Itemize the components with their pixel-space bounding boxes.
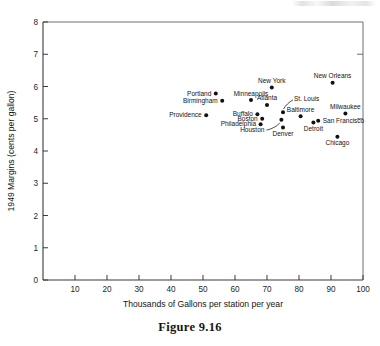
x-axis-ticks: 102030405060708090100 <box>70 275 370 294</box>
plot-frame <box>43 22 363 280</box>
data-point <box>220 99 224 103</box>
data-point-label: Denver <box>273 130 295 137</box>
y-tick-label: 6 <box>33 83 38 92</box>
y-tick-label: 4 <box>33 147 38 156</box>
data-point <box>299 114 303 118</box>
figure-caption: Figure 9.16 <box>0 320 380 335</box>
x-tick-label: 70 <box>262 285 272 294</box>
data-point <box>270 85 274 89</box>
y-tick-label: 0 <box>33 276 38 285</box>
data-point <box>311 121 315 125</box>
data-point <box>316 119 320 123</box>
data-point <box>249 98 253 102</box>
x-tick-label: 20 <box>102 285 112 294</box>
y-tick-label: 5 <box>33 115 38 124</box>
data-point-label: Milwaukee <box>330 103 361 110</box>
data-point <box>281 110 285 114</box>
data-point-label: Atlanta <box>257 94 278 101</box>
x-tick-label: 60 <box>230 285 240 294</box>
data-point <box>204 113 208 117</box>
figure-container: 102030405060708090100 012345678 Thousand… <box>0 0 380 346</box>
x-tick-label: 90 <box>326 285 336 294</box>
data-point <box>335 135 339 139</box>
data-point-labels: PortlandBirminghamProvidenceMinneapolisB… <box>169 72 364 147</box>
y-axis-title: 1949 Margins (cents per gallon) <box>6 90 16 211</box>
x-tick-label: 10 <box>70 285 80 294</box>
data-point <box>214 92 218 96</box>
data-point <box>331 81 335 85</box>
data-point <box>279 118 283 122</box>
data-point <box>265 103 269 107</box>
x-axis-title: Thousands of Gallons per station per yea… <box>123 299 283 309</box>
data-point-label: Detroit <box>304 125 323 132</box>
y-tick-label: 1 <box>33 244 38 253</box>
data-point-label: Birmingham <box>183 97 218 105</box>
y-tick-label: 8 <box>33 18 38 27</box>
data-point <box>260 117 264 121</box>
data-point-label: New Orleans <box>314 72 352 79</box>
data-point-label: Portland <box>187 90 212 97</box>
x-tick-label: 40 <box>166 285 176 294</box>
data-point-label: Baltimore <box>287 106 315 113</box>
data-point-label: Providence <box>169 111 202 118</box>
y-tick-label: 2 <box>33 212 38 221</box>
data-point <box>281 125 285 129</box>
label-leader-lines <box>266 100 293 130</box>
data-point-label: New York <box>258 77 286 84</box>
x-tick-label: 50 <box>198 285 208 294</box>
x-tick-label: 100 <box>356 285 370 294</box>
data-point <box>343 112 347 116</box>
y-tick-label: 3 <box>33 179 38 188</box>
y-axis-ticks: 012345678 <box>33 18 363 285</box>
x-tick-label: 30 <box>134 285 144 294</box>
scatter-plot: 102030405060708090100 012345678 Thousand… <box>0 0 380 320</box>
data-point-label: St. Louis <box>294 95 320 102</box>
data-point-label: Chicago <box>325 139 349 147</box>
data-point-label: Houston <box>240 126 265 133</box>
x-tick-label: 80 <box>294 285 304 294</box>
data-point-label: San Francisco <box>323 117 365 124</box>
y-tick-label: 7 <box>33 50 38 59</box>
